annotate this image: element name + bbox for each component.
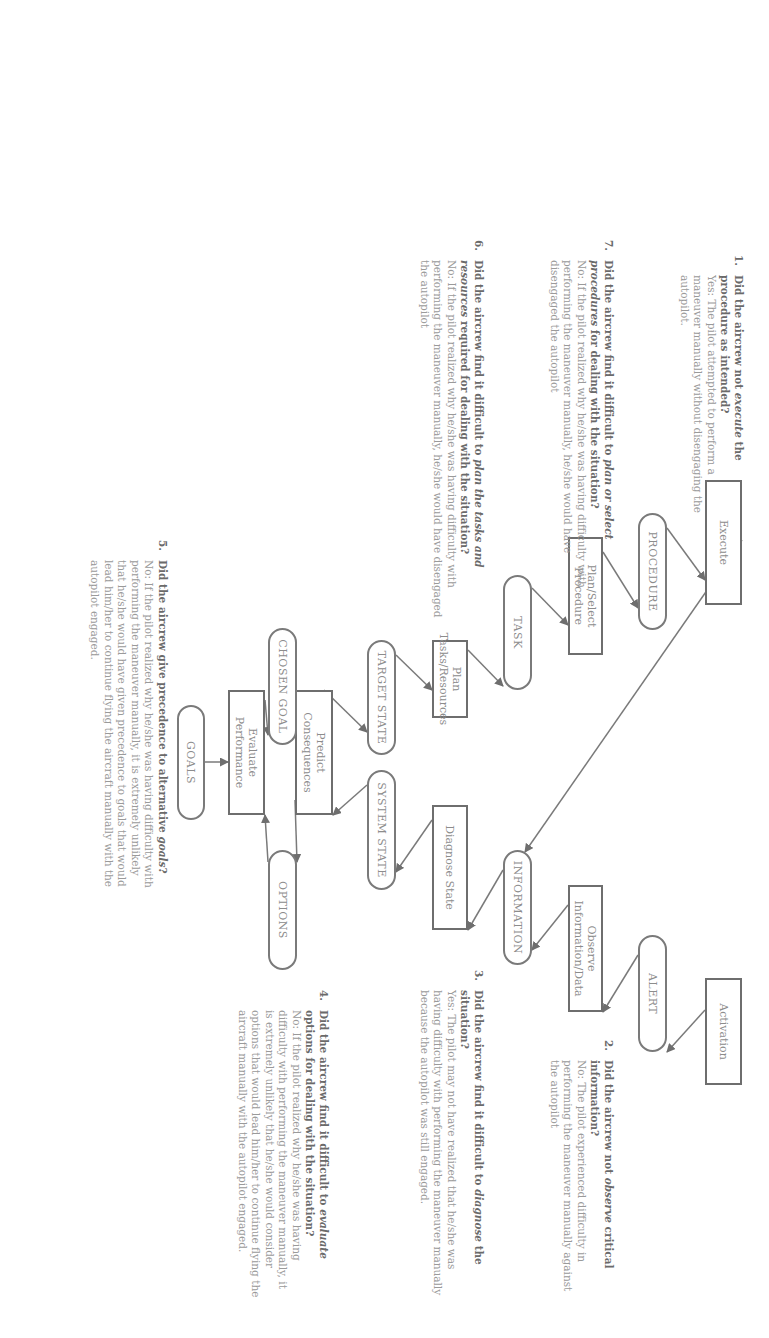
goals-node: GOALS — [177, 705, 205, 820]
options-node: OPTIONS — [268, 850, 297, 970]
alert-node: ALERT — [638, 935, 667, 1052]
observe-information-node: Observe Information/Data — [568, 885, 603, 1012]
predict-consequences-node: Predict Consequences — [295, 690, 333, 815]
question-2: 2. Did the aircrew not observe critical … — [548, 1060, 616, 1300]
task-node: TASK — [503, 575, 532, 690]
system-state-node: SYSTEM STATE — [367, 770, 396, 890]
question-3: 3. Did the aircrew find it difficult to … — [418, 990, 486, 1300]
evaluate-performance-node: Evaluate Performance — [228, 690, 265, 815]
activation-node: Activation — [705, 978, 742, 1085]
target-state-node: TARGET STATE — [367, 640, 396, 755]
question-5: 5. Did the aircrew give precedence to al… — [88, 560, 169, 890]
plan-tasks-resources-node: Plan Tasks/Resources — [432, 640, 468, 718]
information-node: INFORMATION — [503, 850, 532, 965]
rotated-page: GOALS Evaluate Performance Predict Conse… — [0, 0, 769, 1338]
procedure-node: PROCEDURE — [638, 513, 667, 630]
diagnose-state-node: Diagnose State — [432, 805, 468, 930]
question-4: 4. Did the aircrew find it difficult to … — [236, 1010, 331, 1300]
question-7: 7. Did the aircrew find it difficult to … — [548, 260, 616, 605]
chosen-goal-node: CHOSEN GOAL — [268, 628, 297, 745]
question-1: 1. Did the aircrew not execute the proce… — [678, 275, 746, 515]
question-6: 6. Did the aircrew find it difficult to … — [418, 260, 486, 620]
